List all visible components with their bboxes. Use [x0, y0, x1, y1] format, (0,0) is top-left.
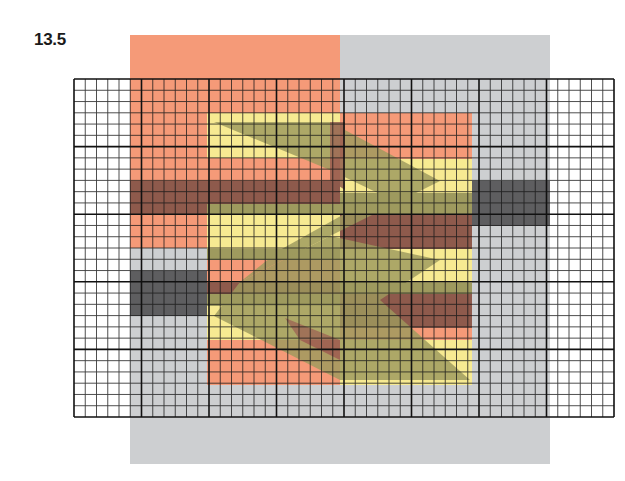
upper-diagonal-shadow [330, 122, 345, 190]
grid-diagram [0, 0, 625, 481]
